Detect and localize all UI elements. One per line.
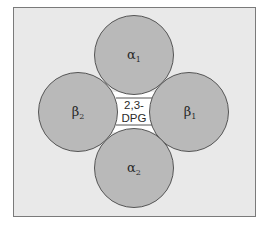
label-alpha2: α2 (127, 160, 141, 177)
dpg-label-line2: DPG (117, 112, 151, 125)
label-beta1: β1 (184, 104, 197, 121)
dpg-label-line1: 2,3- (117, 99, 151, 112)
dpg-label: 2,3- DPG (117, 99, 151, 125)
label-alpha1: α1 (127, 47, 141, 64)
label-beta2: β2 (72, 104, 85, 121)
